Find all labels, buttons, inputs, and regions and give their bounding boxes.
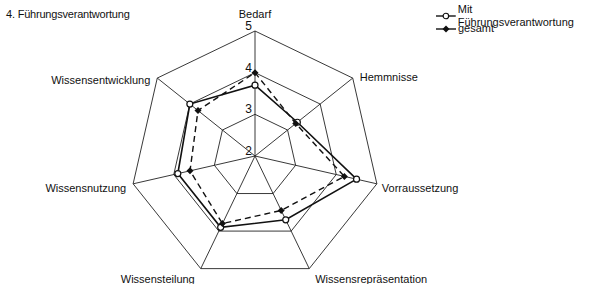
tick-label: 2 [245,144,252,158]
radar-grid [133,31,377,269]
series-mit-fuehrungsverantwortung [175,82,360,230]
data-point [278,207,285,214]
data-point [175,171,181,177]
data-point [354,176,360,182]
data-point [187,101,193,107]
axis-label: Wissensentwicklung [51,74,150,86]
axis-label: Wissensrepräsentation [315,273,427,284]
tick-label: 5 [245,19,252,33]
grid-spoke [255,78,353,156]
data-point [187,167,194,174]
axis-label: Vorraussetzung [382,182,458,194]
axis-label: Wissensteilung [121,273,195,284]
data-point [283,217,289,223]
axis-label: Wissensnutzung [45,182,126,194]
grid-spoke [133,156,255,184]
tick-label: 3 [245,102,252,116]
radar-chart: 2345 BedarfHemmnisseVorraussetzungWissen… [0,0,590,284]
data-point [252,82,258,88]
tick-label: 4 [245,61,252,75]
axis-label: Hemmnisse [360,71,418,83]
axis-label: Bedarf [239,8,272,20]
radar-series [175,69,360,230]
